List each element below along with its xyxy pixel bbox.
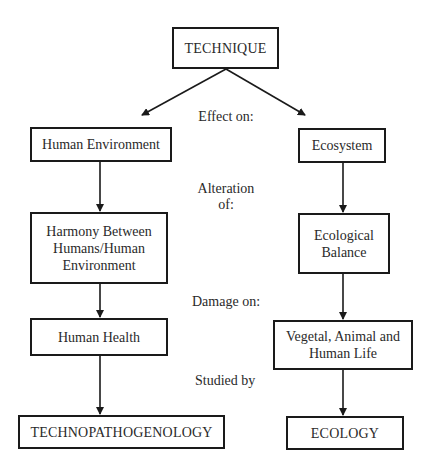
life-label-line1: Vegetal, Animal and [286,328,400,345]
harmony-label-line3: Environment [62,257,135,274]
harmony-box: Harmony Between Humans/Human Environment [30,212,168,284]
effect-on-label: Effect on: [193,108,259,125]
ecology-box: ECOLOGY [286,416,404,450]
damage-on-label: Damage on: [192,293,272,310]
technopathogenology-label: TECHNOPATHOGENOLOGY [30,424,212,441]
technique-box: TECHNIQUE [172,27,279,69]
ecosystem-box: Ecosystem [298,128,386,163]
flow-diagram: TECHNIQUE Human Environment Harmony Betw… [0,0,431,475]
ecological-balance-box: Ecological Balance [298,213,390,274]
ecosystem-label: Ecosystem [312,137,373,154]
ecological-balance-line2: Balance [321,244,366,261]
human-environment-label: Human Environment [42,136,160,153]
human-health-label: Human Health [58,329,140,346]
technique-label: TECHNIQUE [185,40,267,57]
ecological-balance-line1: Ecological [314,227,374,244]
human-health-box: Human Health [30,318,168,356]
human-environment-box: Human Environment [30,127,172,162]
life-label-line2: Human Life [309,345,377,362]
harmony-label-line2: Humans/Human [53,240,145,257]
technopathogenology-box: TECHNOPATHOGENOLOGY [18,415,225,449]
studied-by-label: Studied by [195,372,265,389]
alteration-label-line1: Alteration [190,180,262,197]
vegetal-animal-human-life-box: Vegetal, Animal and Human Life [273,320,413,370]
alteration-label-line2: of: [190,196,262,213]
harmony-label-line1: Harmony Between [46,223,151,240]
ecology-label: ECOLOGY [311,425,379,442]
